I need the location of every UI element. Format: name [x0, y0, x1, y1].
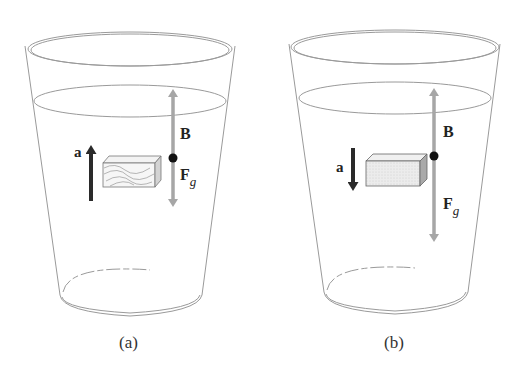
- wood-block: [103, 156, 161, 187]
- water-surface-a: [34, 85, 226, 117]
- dense-block: [366, 154, 427, 186]
- acceleration-label-a: a: [74, 144, 82, 160]
- gravity-force-label-a: Fg: [180, 166, 197, 189]
- acceleration-label-b: a: [336, 159, 344, 175]
- gravity-force-label-b: Fg: [443, 195, 460, 218]
- figure: a B Fg (a): [0, 0, 512, 372]
- panel-a: a B Fg (a): [25, 32, 235, 352]
- caption-b: (b): [384, 333, 404, 352]
- caption-a: (a): [119, 333, 138, 352]
- center-point-b: [430, 152, 439, 161]
- buoyant-force-label-b: B: [443, 123, 454, 140]
- buoyant-force-label-a: B: [180, 125, 191, 142]
- center-point-a: [169, 154, 178, 163]
- panel-b: a B Fg (b): [289, 30, 500, 352]
- water-surface-b: [299, 82, 491, 114]
